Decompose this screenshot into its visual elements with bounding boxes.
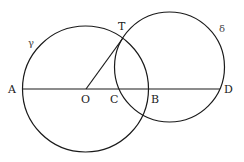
circle-delta — [115, 12, 225, 122]
point-label-A: A — [7, 83, 17, 96]
point-label-O: O — [81, 93, 90, 106]
point-label-B: B — [151, 93, 159, 106]
point-label-D: D — [224, 83, 233, 96]
point-label-C: C — [110, 93, 118, 106]
circle-label-gamma: γ — [28, 37, 34, 48]
geometry-diagram: A O C B D T γ δ — [0, 0, 244, 162]
circle-label-delta: δ — [219, 23, 225, 34]
segment-OT — [86, 38, 123, 89]
point-label-T: T — [118, 20, 126, 33]
